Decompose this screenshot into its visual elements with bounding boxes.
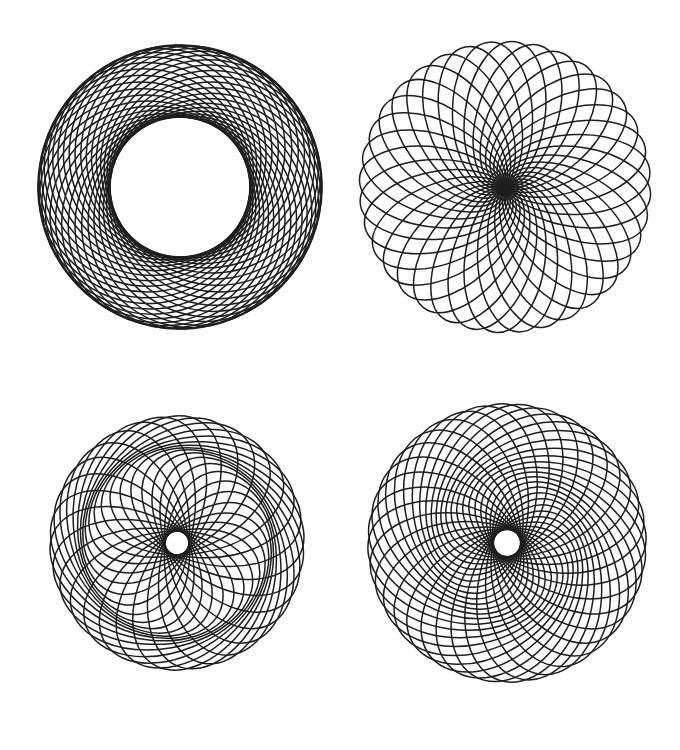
spirograph-canvas <box>0 0 680 750</box>
